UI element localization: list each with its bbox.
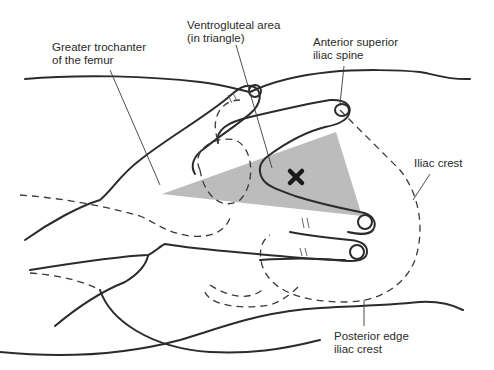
hand-wrist-outline xyxy=(55,256,148,326)
fingernail xyxy=(358,215,372,229)
label-anterior-superior-iliac-spine: Anterior superior iliac spine xyxy=(313,36,398,62)
leader-line-greater-trochanter xyxy=(110,70,160,185)
hand-heel-curve xyxy=(100,290,320,353)
ventrogluteal-triangle xyxy=(162,132,362,216)
hidden-anatomy-dashed xyxy=(210,285,262,296)
label-iliac-crest: Iliac crest xyxy=(414,157,463,170)
leader-line-ventrogluteal-area xyxy=(236,45,272,168)
hand-bottom-outline xyxy=(30,244,345,270)
leader-line-iliac-crest xyxy=(413,174,430,200)
label-greater-trochanter: Greater trochanter of the femur xyxy=(52,41,146,67)
knuckle-crease xyxy=(302,218,309,228)
fingernail xyxy=(350,245,364,259)
knuckle-crease xyxy=(300,248,307,256)
label-posterior-edge-iliac-crest: Posterior edge iliac crest xyxy=(334,330,409,356)
fingernail xyxy=(335,104,349,116)
hidden-anatomy-dashed xyxy=(30,273,100,290)
body-contour-top xyxy=(25,70,470,92)
hidden-anatomy-dashed xyxy=(205,285,300,307)
hidden-anatomy-dashed xyxy=(20,195,230,236)
label-ventrogluteal-area: Ventrogluteal area (in triangle) xyxy=(187,19,280,45)
ventrogluteal-diagram: Greater trochanter of the femur Ventrogl… xyxy=(0,0,494,370)
